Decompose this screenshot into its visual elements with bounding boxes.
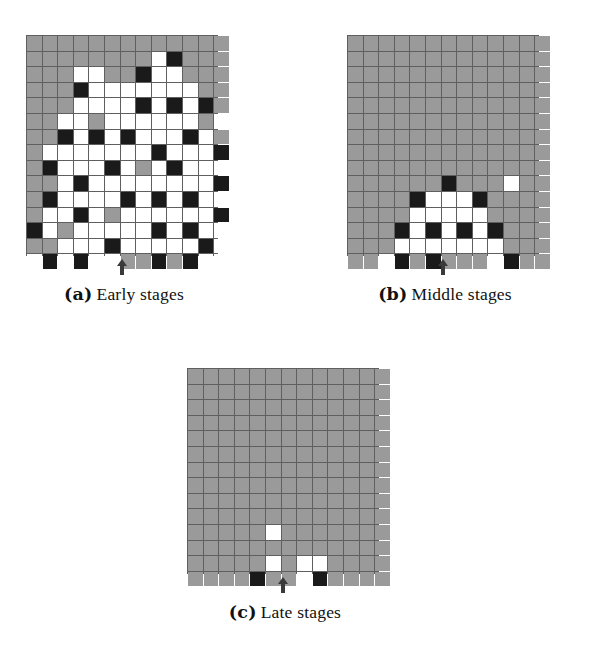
lattice-cell: [266, 494, 281, 509]
lattice-cell: [204, 400, 219, 415]
lattice-cell: [410, 145, 425, 160]
lattice-cell: [74, 36, 89, 51]
caption-text-a: Early stages: [97, 284, 184, 304]
lattice-cell: [105, 52, 120, 67]
lattice-cell: [214, 98, 229, 113]
lattice-cell: [348, 52, 363, 67]
lattice-cell: [535, 223, 550, 238]
lattice-cell: [204, 463, 219, 478]
lattice-cell: [121, 98, 136, 113]
lattice-cell: [167, 130, 182, 145]
lattice-cell: [235, 416, 250, 431]
lattice-cell: [442, 36, 457, 51]
lattice-cell: [167, 52, 182, 67]
lattice-cell: [360, 463, 375, 478]
lattice-cell: [344, 478, 359, 493]
lattice-cell: [457, 98, 472, 113]
lattice-cell: [395, 145, 410, 160]
lattice-cell: [282, 431, 297, 446]
lattice-cell: [442, 83, 457, 98]
lattice-cell: [282, 447, 297, 462]
lattice-cell: [183, 98, 198, 113]
lattice-cell: [204, 572, 219, 587]
lattice-cell: [375, 385, 390, 400]
lattice-cell: [426, 223, 441, 238]
lattice-cell: [282, 509, 297, 524]
lattice-cell: [473, 36, 488, 51]
lattice-cell: [488, 239, 503, 254]
lattice-cell: [360, 494, 375, 509]
lattice-cell: [328, 385, 343, 400]
lattice-cell: [520, 145, 535, 160]
lattice-cell: [27, 208, 42, 223]
lattice-cell: [473, 254, 488, 269]
lattice-cell: [504, 114, 519, 129]
lattice-cell: [89, 239, 104, 254]
lattice-cell: [348, 130, 363, 145]
lattice-cell: [204, 478, 219, 493]
lattice-cell: [297, 525, 312, 540]
lattice-cell: [410, 192, 425, 207]
lattice-cell: [520, 98, 535, 113]
lattice-cell: [442, 98, 457, 113]
lattice-cell: [152, 208, 167, 223]
lattice-cell: [473, 114, 488, 129]
lattice-cell: [136, 161, 151, 176]
lattice-cell: [297, 572, 312, 587]
lattice-cell: [74, 254, 89, 269]
lattice-cell: [426, 145, 441, 160]
lattice-cell: [74, 52, 89, 67]
lattice-cell: [58, 176, 73, 191]
lattice-cell: [328, 509, 343, 524]
lattice-cell: [442, 52, 457, 67]
lattice-cell: [167, 208, 182, 223]
lattice-cell: [395, 67, 410, 82]
lattice-cell: [535, 208, 550, 223]
lattice-cell: [282, 556, 297, 571]
lattice-cell: [360, 385, 375, 400]
lattice-cell: [188, 556, 203, 571]
lattice-cell: [89, 98, 104, 113]
lattice-cell: [266, 431, 281, 446]
lattice-cell: [199, 67, 214, 82]
lattice-cell: [297, 541, 312, 556]
lattice-cell: [214, 145, 229, 160]
lattice-cell: [360, 541, 375, 556]
lattice-cell: [313, 447, 328, 462]
lattice-cell: [121, 239, 136, 254]
lattice-cell: [89, 161, 104, 176]
lattice-cell: [379, 83, 394, 98]
lattice-cell: [27, 114, 42, 129]
lattice-cell: [235, 525, 250, 540]
lattice-cell: [121, 161, 136, 176]
lattice-cell: [105, 145, 120, 160]
lattice-cell: [328, 463, 343, 478]
lattice-cell: [204, 369, 219, 384]
lattice-cell: [379, 145, 394, 160]
lattice-cell: [520, 36, 535, 51]
lattice-cell: [183, 52, 198, 67]
lattice-cell: [344, 525, 359, 540]
lattice-cell: [199, 176, 214, 191]
lattice-cell: [105, 223, 120, 238]
lattice-cell: [504, 223, 519, 238]
lattice-cell: [313, 416, 328, 431]
lattice-cell: [282, 369, 297, 384]
lattice-cell: [395, 98, 410, 113]
lattice-cell: [266, 447, 281, 462]
lattice-cell: [43, 52, 58, 67]
lattice-cell: [219, 525, 234, 540]
lattice-cell: [520, 67, 535, 82]
lattice-cell: [250, 463, 265, 478]
lattice-cell: [214, 223, 229, 238]
lattice-cell: [214, 176, 229, 191]
lattice-cell: [410, 254, 425, 269]
lattice-cell: [504, 239, 519, 254]
lattice-cell: [488, 130, 503, 145]
lattice-cell: [152, 223, 167, 238]
lattice-cell: [74, 192, 89, 207]
figure-panel-c: (c)Late stages: [187, 368, 383, 574]
lattice-cell: [250, 556, 265, 571]
lattice-cell: [395, 114, 410, 129]
lattice-cell: [183, 83, 198, 98]
